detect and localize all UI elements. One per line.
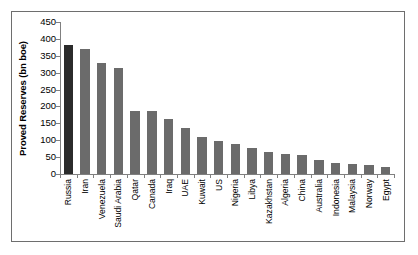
bar [247, 148, 256, 174]
bar [164, 119, 173, 174]
x-axis-category-label-text: Malaysia [348, 179, 357, 213]
x-axis-category-label-text: Canada [148, 179, 157, 209]
bar [381, 167, 390, 174]
x-axis-category-label-text: Iraq [164, 179, 173, 194]
y-axis-tick-label: 0 [28, 169, 56, 179]
bar [114, 68, 123, 174]
x-axis-category-label: US [210, 179, 227, 241]
y-axis-title-text: Proved Reserves (bn boe) [17, 41, 28, 156]
bar [331, 163, 340, 174]
y-axis-tick-mark [56, 73, 60, 74]
x-axis-category-label: Iraq [160, 179, 177, 241]
x-axis-category-label: Australia [311, 179, 328, 241]
y-axis-tick-mark [56, 123, 60, 124]
bar [80, 49, 89, 174]
x-axis-tick-mark [294, 174, 295, 178]
x-axis-category-label-text: Egypt [381, 179, 390, 201]
x-axis-category-label-text: Norway [365, 179, 374, 208]
x-axis-category-label: Libya [244, 179, 261, 241]
bar [64, 45, 73, 174]
x-axis-tick-mark [77, 174, 78, 178]
x-axis-category-label: Indonesia [327, 179, 344, 241]
y-axis-tick-label: 300 [28, 68, 56, 78]
y-axis-tick-mark [56, 39, 60, 40]
y-axis-tick-mark [56, 56, 60, 57]
x-axis-category-label: Kuwait [194, 179, 211, 241]
x-axis-tick-mark [127, 174, 128, 178]
bar [348, 164, 357, 174]
bar [231, 144, 240, 174]
bar [130, 111, 139, 175]
y-axis-tick-label: 350 [28, 51, 56, 61]
x-axis-category-label: Norway [361, 179, 378, 241]
x-axis-category-label-text: Algeria [281, 179, 290, 206]
bar [264, 152, 273, 174]
x-axis-category-label-text: Nigeria [231, 179, 240, 206]
x-axis-tick-mark [93, 174, 94, 178]
x-axis-category-label-text: UAE [181, 179, 190, 197]
x-axis-category-label-text: Russia [64, 179, 73, 205]
x-axis-category-label-text: Kuwait [198, 179, 207, 205]
x-axis-tick-mark [277, 174, 278, 178]
y-axis-tick-mark [56, 140, 60, 141]
y-axis-tick-mark [56, 157, 60, 158]
bar [214, 141, 223, 174]
x-axis-category-label-text: Saudi Arabia [114, 179, 123, 228]
bar [147, 111, 156, 174]
x-axis-category-label: Venezuela [93, 179, 110, 241]
x-axis-tick-mark [327, 174, 328, 178]
x-axis-tick-mark [311, 174, 312, 178]
x-axis-category-label-text: Libya [248, 179, 257, 200]
y-axis-tick-label: 50 [28, 152, 56, 162]
x-axis-category-label-text: Kazakhstan [264, 179, 273, 224]
x-axis-tick-mark [227, 174, 228, 178]
x-axis-category-labels: RussiaIranVenezuelaSaudi ArabiaQatarCana… [60, 179, 394, 241]
x-axis-category-label-text: China [298, 179, 307, 201]
x-axis-tick-mark [144, 174, 145, 178]
bar [364, 165, 373, 174]
x-axis-tick-mark [60, 174, 61, 178]
y-axis-tick-label: 450 [28, 17, 56, 27]
x-axis-tick-mark [210, 174, 211, 178]
y-axis-tick-labels: 050100150200250300350400450 [28, 0, 56, 255]
x-axis-category-label: UAE [177, 179, 194, 241]
y-axis-tick-mark [56, 90, 60, 91]
x-axis-category-label-text: Indonesia [331, 179, 340, 216]
x-axis-category-label: Egypt [377, 179, 394, 241]
bar [314, 160, 323, 174]
x-axis-tick-mark [177, 174, 178, 178]
x-axis-category-label: Russia [60, 179, 77, 241]
x-axis-category-label: Iran [77, 179, 94, 241]
x-axis-tick-mark [377, 174, 378, 178]
y-axis-tick-mark [56, 106, 60, 107]
bar [181, 128, 190, 174]
bar [281, 154, 290, 174]
x-axis-category-label: China [294, 179, 311, 241]
x-axis-category-label-text: US [214, 179, 223, 191]
x-axis-category-label-text: Iran [81, 179, 90, 194]
x-axis-tick-mark [260, 174, 261, 178]
x-axis-category-label: Nigeria [227, 179, 244, 241]
y-axis-tick-mark [56, 22, 60, 23]
y-axis-tick-label: 150 [28, 119, 56, 129]
x-axis-category-label: Malaysia [344, 179, 361, 241]
y-axis-tick-label: 200 [28, 102, 56, 112]
x-axis-category-label: Canada [144, 179, 161, 241]
x-axis-category-label-text: Australia [315, 179, 324, 212]
bar [97, 63, 106, 174]
bar [197, 137, 206, 174]
x-axis-tick-mark [361, 174, 362, 178]
x-axis-tick-mark [394, 174, 395, 178]
x-axis-category-label: Algeria [277, 179, 294, 241]
x-axis-category-label: Kazakhstan [260, 179, 277, 241]
x-axis-category-label: Qatar [127, 179, 144, 241]
plot-area [60, 22, 394, 174]
y-axis-tick-label: 400 [28, 34, 56, 44]
x-axis-category-label: Saudi Arabia [110, 179, 127, 241]
x-axis-category-label-text: Venezuela [97, 179, 106, 219]
x-axis-category-label-text: Qatar [131, 179, 140, 201]
y-axis-tick-label: 250 [28, 85, 56, 95]
chart-figure: Proved Reserves (bn boe) 050100150200250… [0, 0, 418, 255]
x-axis-tick-mark [110, 174, 111, 178]
x-axis-tick-mark [194, 174, 195, 178]
